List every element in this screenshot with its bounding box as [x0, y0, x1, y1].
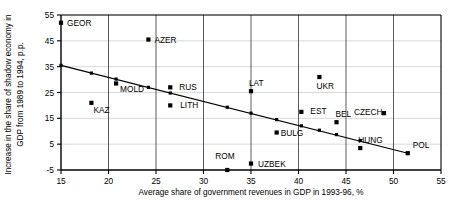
y-axis-tick-label: 35 [45, 62, 55, 72]
scatter-chart: -551525354555152025303540455055GEORAZERM… [0, 0, 450, 204]
y-axis-title-line2: GDP from 1989 to 1994, p.p. [16, 42, 25, 147]
data-point-marker [317, 75, 321, 79]
trendline-fitted-marker [59, 64, 62, 67]
y-axis-tick-label: 55 [45, 10, 55, 20]
data-point-label: HUNG [358, 135, 382, 145]
data-point-marker [168, 85, 172, 89]
y-axis-title-line1: Increase in the share of shadow economy … [4, 14, 13, 175]
data-point-label: GEOR [67, 18, 91, 28]
x-axis-title: Average share of government revenues in … [139, 188, 364, 197]
data-point-marker [249, 161, 253, 165]
data-point-label: RUS [179, 82, 197, 92]
trendline-fitted-marker [318, 129, 321, 132]
data-point-label: ROM [215, 151, 234, 161]
data-point-label: POL [413, 140, 430, 150]
y-axis-tick-label: 15 [45, 113, 55, 123]
trendline-fitted-marker [249, 112, 252, 115]
data-point-marker [334, 120, 338, 124]
data-point-label: LAT [249, 78, 264, 88]
trendline-fitted-marker [115, 77, 118, 80]
data-point-label: MOLD [120, 84, 144, 94]
trendline-fitted-marker [335, 133, 338, 136]
x-axis-tick-label: 40 [294, 176, 304, 186]
data-point-label: AZER [154, 35, 176, 45]
x-axis-tick-label: 55 [436, 176, 446, 186]
data-point-marker [114, 81, 118, 85]
trendline-fitted-marker [90, 72, 93, 75]
trendline-fitted-marker [226, 106, 229, 109]
y-axis-tick-label: 5 [49, 139, 54, 149]
data-point-label: KAZ [93, 105, 109, 115]
data-point-marker [225, 168, 229, 172]
x-axis-tick-label: 25 [151, 176, 161, 186]
y-axis-tick-label: -5 [47, 165, 55, 175]
y-axis-tick-label: 25 [45, 88, 55, 98]
x-axis-tick-label: 45 [341, 176, 351, 186]
trendline-fitted-marker [275, 118, 278, 121]
data-point-marker [275, 130, 279, 134]
data-point-marker [59, 21, 63, 25]
data-point-marker [299, 110, 303, 114]
data-point-marker [146, 37, 150, 41]
data-point-marker [406, 151, 410, 155]
x-axis-tick-label: 50 [389, 176, 399, 186]
x-axis-tick-label: 30 [199, 176, 209, 186]
data-point-label: UZBEK [258, 159, 286, 169]
x-axis-tick-label: 15 [56, 176, 66, 186]
y-axis-tick-label: 45 [45, 36, 55, 46]
data-point-marker [358, 146, 362, 150]
data-point-marker [249, 89, 253, 93]
data-point-label: LITH [180, 100, 198, 110]
data-point-label: BEL [336, 109, 352, 119]
trendline-fitted-marker [169, 91, 172, 94]
data-point-label: BULG [281, 128, 304, 138]
x-axis-tick-label: 20 [104, 176, 114, 186]
x-axis-tick-label: 35 [246, 176, 256, 186]
data-point-label: CZECH [354, 107, 383, 117]
data-point-label: UKR [316, 81, 334, 91]
data-point-marker [168, 103, 172, 107]
chart-canvas: -551525354555152025303540455055GEORAZERM… [0, 0, 450, 204]
data-point-label: EST [310, 106, 326, 116]
trendline-fitted-marker [147, 86, 150, 89]
